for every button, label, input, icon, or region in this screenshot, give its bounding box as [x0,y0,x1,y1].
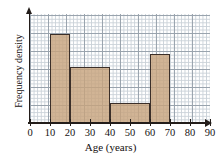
histogram-figure: 0102030405060708090 Age (years) Frequenc… [0,0,221,159]
x-axis-tick-label: 80 [179,127,201,138]
y-axis-label-wrapper: Frequency density [8,16,26,126]
x-axis-tick-label: 60 [139,127,161,138]
y-axis-label: Frequency density [13,34,24,108]
x-axis-line [28,122,206,124]
x-axis-tick-label: 40 [99,127,121,138]
histogram-bar [50,34,70,123]
x-axis-tick [150,119,151,126]
histogram-bar [70,67,110,123]
x-axis-tick [30,119,31,126]
x-axis-tick [170,119,171,126]
x-axis-tick-label: 0 [19,127,41,138]
x-axis-tick-label: 50 [119,127,141,138]
x-axis-tick-label: 30 [79,127,101,138]
x-axis-tick [210,119,211,126]
x-axis-tick-label: 10 [39,127,61,138]
x-axis-tick [130,119,131,126]
x-axis-tick [90,119,91,126]
x-axis-tick-label: 20 [59,127,81,138]
x-axis-label: Age (years) [0,141,221,153]
y-axis-line [29,14,31,123]
plot-area [30,14,210,123]
x-axis-tick [50,119,51,126]
x-axis-tick-label: 90 [199,127,221,138]
x-axis-tick [190,119,191,126]
histogram-bar [150,54,170,123]
x-axis-tick [70,119,71,126]
y-axis-arrow-icon [26,7,32,14]
x-axis-tick-label: 70 [159,127,181,138]
x-axis-tick [110,119,111,126]
